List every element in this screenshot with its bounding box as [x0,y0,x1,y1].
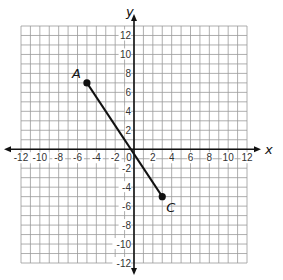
y-tick-label: 12 [120,30,132,41]
y-tick-label: -12 [117,258,132,269]
y-axis-arrow-down-icon [131,268,137,275]
y-tick-label: 8 [125,68,131,79]
y-axis-title: y [125,4,134,19]
coordinate-plane: x y -12-10-8-6-4-2024681012-12-10-8-6-4-… [0,0,283,280]
y-tick-label: 6 [125,87,131,98]
x-tick-label: -8 [54,152,63,163]
point-label-C: C [166,200,176,215]
x-tick-label: 8 [207,152,213,163]
y-tick-label: -6 [122,201,131,212]
y-tick-label: -4 [122,182,131,193]
x-tick-label: 2 [150,152,156,163]
x-tick-label: -2 [111,152,120,163]
point-C [159,193,166,200]
y-tick-label: 4 [125,106,131,117]
x-tick-label: -12 [14,152,29,163]
x-tick-label: -4 [92,152,101,163]
x-tick-label: 6 [188,152,194,163]
x-axis-title: x [264,142,273,157]
x-tick-label: -10 [33,152,48,163]
x-tick-label: 12 [241,152,253,163]
y-tick-label: 10 [120,49,132,60]
y-tick-label: -2 [122,163,131,174]
point-label-A: A [71,66,81,81]
x-axis-arrow-left-icon [4,146,11,152]
x-tick-label: 10 [223,152,235,163]
x-tick-label: 0 [126,152,132,163]
x-tick-label: 4 [169,152,175,163]
point-A [83,79,90,86]
x-tick-label: -6 [73,152,82,163]
y-tick-label: -10 [117,239,132,250]
y-tick-label: -8 [122,220,131,231]
x-axis-arrow-right-icon [254,146,261,152]
y-tick-label: 2 [125,125,131,136]
